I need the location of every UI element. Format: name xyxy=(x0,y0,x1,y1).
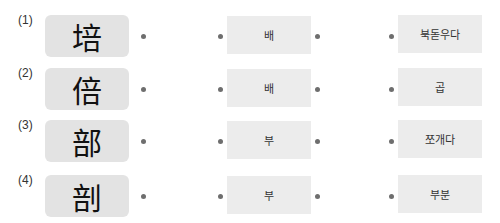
meaning-connect-dot[interactable] xyxy=(389,139,394,144)
hanja-card: 培 xyxy=(45,15,129,57)
hanja-connect-dot[interactable] xyxy=(141,194,146,199)
match-row-1: (1) 培 배 북돋우다 xyxy=(0,15,500,59)
sound-card: 배 xyxy=(227,16,311,54)
meaning-connect-dot[interactable] xyxy=(389,34,394,39)
meaning-connect-dot[interactable] xyxy=(389,194,394,199)
match-row-2: (2) 倍 배 곱 xyxy=(0,68,500,112)
item-number: (4) xyxy=(18,173,33,187)
hanja-card: 倍 xyxy=(45,68,129,110)
sound-right-dot[interactable] xyxy=(315,34,320,39)
match-row-4: (4) 剖 부 부분 xyxy=(0,175,500,219)
match-row-3: (3) 部 부 쪼개다 xyxy=(0,120,500,164)
hanja-card: 剖 xyxy=(45,175,129,217)
sound-left-dot[interactable] xyxy=(218,87,223,92)
hanja-connect-dot[interactable] xyxy=(141,139,146,144)
hanja-card: 部 xyxy=(45,120,129,162)
sound-card: 배 xyxy=(227,69,311,107)
meaning-card: 곱 xyxy=(398,68,482,106)
sound-card: 부 xyxy=(227,176,311,214)
hanja-connect-dot[interactable] xyxy=(141,87,146,92)
item-number: (2) xyxy=(18,66,33,80)
meaning-card: 쪼개다 xyxy=(398,120,482,158)
item-number: (1) xyxy=(18,13,33,27)
sound-right-dot[interactable] xyxy=(315,87,320,92)
item-number: (3) xyxy=(18,118,33,132)
hanja-connect-dot[interactable] xyxy=(141,34,146,39)
sound-card: 부 xyxy=(227,121,311,159)
sound-left-dot[interactable] xyxy=(218,194,223,199)
sound-right-dot[interactable] xyxy=(315,194,320,199)
meaning-card: 부분 xyxy=(398,175,482,213)
meaning-card: 북돋우다 xyxy=(398,15,482,53)
sound-left-dot[interactable] xyxy=(218,34,223,39)
sound-right-dot[interactable] xyxy=(315,139,320,144)
sound-left-dot[interactable] xyxy=(218,139,223,144)
meaning-connect-dot[interactable] xyxy=(389,87,394,92)
